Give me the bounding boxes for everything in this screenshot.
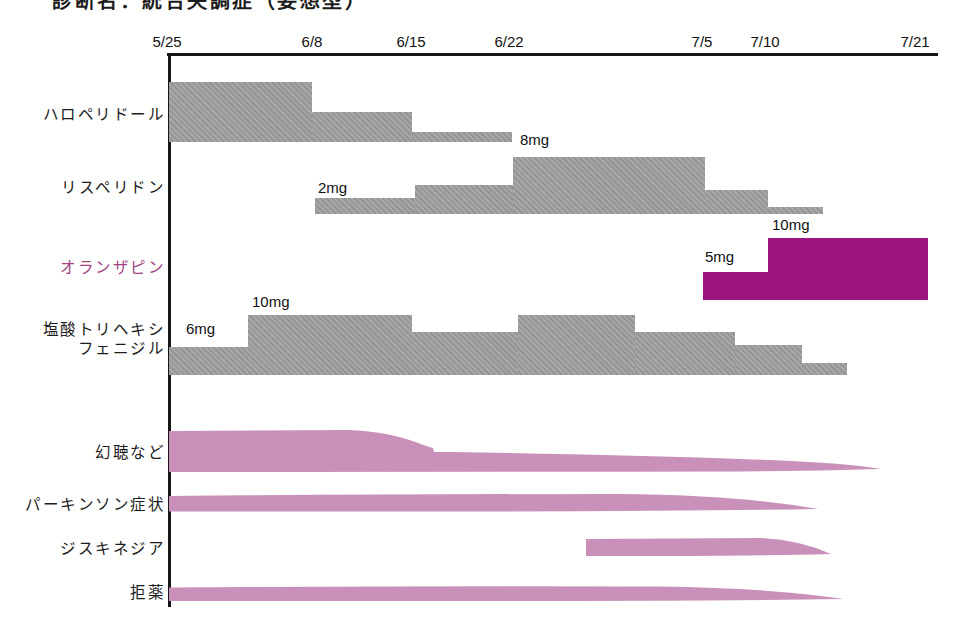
symptom-shape — [169, 430, 881, 472]
symptom-shape — [169, 494, 818, 512]
symptom-shape — [169, 586, 844, 601]
symptom-label: パーキンソン症状 — [0, 495, 165, 514]
chart-layer: 5/256/86/156/227/57/107/21ハロペリドールリスペリドンオ… — [0, 0, 958, 641]
symptom-shape — [586, 538, 831, 556]
symptom-label: 幻聴など — [0, 443, 165, 462]
medication-timeline-chart: 診断名：統合失調症（妄想型） 5/256/86/156/227/57/107/2… — [0, 0, 958, 641]
symptom-label: ジスキネジア — [0, 539, 165, 558]
symptom-label: 拒薬 — [0, 583, 165, 602]
